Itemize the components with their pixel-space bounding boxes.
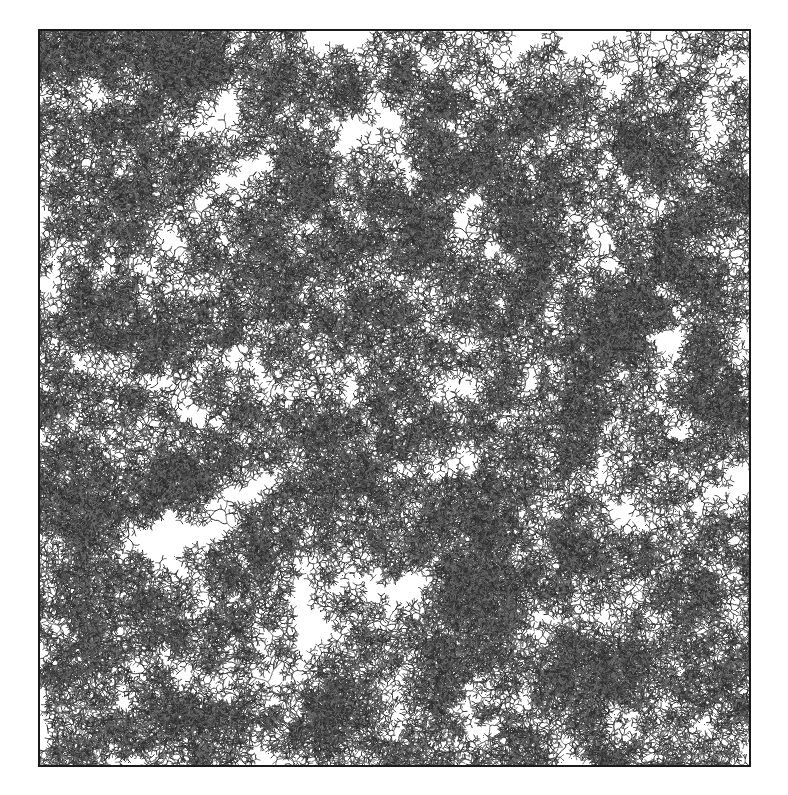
dla-pattern-canvas [38,29,751,767]
plot-panel [38,29,751,767]
figure-page [0,0,788,795]
